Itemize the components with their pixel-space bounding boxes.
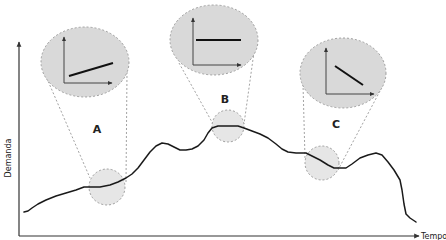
zoom-callout-a [41, 27, 129, 97]
demand-curve [24, 126, 416, 222]
callout-label-a: A [93, 123, 102, 136]
callout-label-c: C [332, 118, 340, 131]
y-axis-label: Demanda [4, 138, 13, 177]
zoom-callout-b [170, 5, 258, 75]
callout-label-b: B [221, 93, 229, 106]
zoom-callout-c [300, 38, 386, 108]
demand-diagram: A B C Demanda Tempo [0, 0, 446, 240]
highlight-circle-c [305, 146, 339, 180]
x-axis-label: Tempo [420, 232, 446, 240]
